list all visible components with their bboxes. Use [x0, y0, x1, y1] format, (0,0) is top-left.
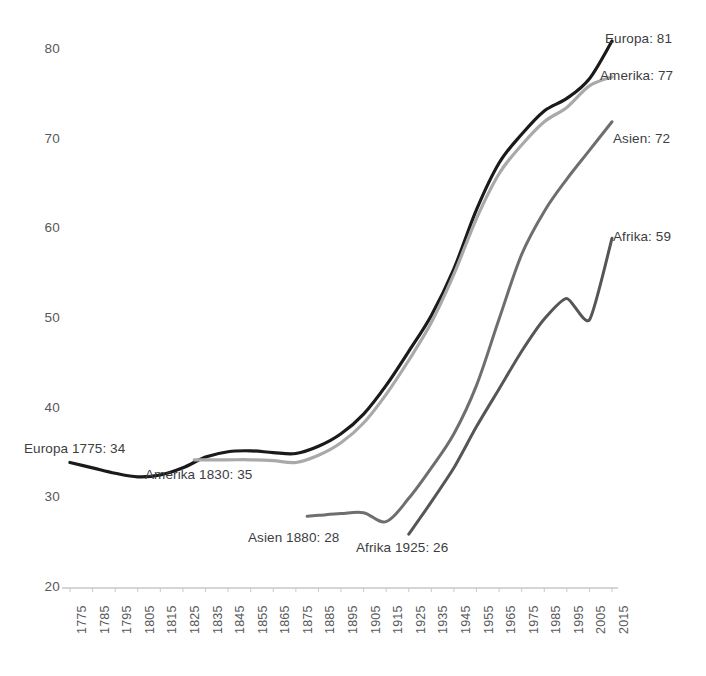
y-axis-tick-label: 30 [26, 489, 60, 504]
y-axis-tick-label: 70 [26, 131, 60, 146]
y-axis-tick-label: 20 [26, 579, 60, 594]
x-axis-tick-label: 1915 [391, 605, 405, 634]
x-axis-tick-label: 1785 [98, 605, 112, 634]
series-start-label-amerika: Amerika 1830: 35 [145, 467, 252, 482]
y-axis-tick-label: 80 [26, 41, 60, 56]
x-axis-tick-label: 1835 [211, 605, 225, 634]
x-axis-tick-label: 2005 [594, 605, 608, 634]
series-end-label-asien: Asien: 72 [613, 131, 670, 146]
x-axis-tick-label: 1895 [346, 605, 360, 634]
x-axis-tick-label: 1945 [459, 605, 473, 634]
x-axis-tick-label: 1935 [436, 605, 450, 634]
x-axis-tick-label: 1985 [549, 605, 563, 634]
series-start-label-europa: Europa 1775: 34 [24, 441, 125, 456]
chart-container: 80706050403020 1775178517951805181518251… [0, 0, 706, 676]
x-axis-tick-label: 1805 [143, 605, 157, 634]
x-axis-tick-label: 1885 [323, 605, 337, 634]
series-start-label-afrika: Afrika 1925: 26 [356, 540, 448, 555]
x-axis-tick-label: 1955 [482, 605, 496, 634]
x-axis-tick-label: 1905 [369, 605, 383, 634]
series-end-label-europa: Europa: 81 [605, 31, 672, 46]
series-layer [70, 41, 612, 534]
x-axis-tick-label: 1845 [233, 605, 247, 634]
x-axis-tick-label: 1995 [572, 605, 586, 634]
x-axis-tick-label: 1875 [301, 605, 315, 634]
line-chart-plot [0, 0, 706, 676]
series-end-label-afrika: Afrika: 59 [613, 229, 671, 244]
series-end-label-amerika: Amerika: 77 [600, 68, 673, 83]
y-axis-tick-label: 60 [26, 220, 60, 235]
x-axis-tick-label: 1925 [414, 605, 428, 634]
x-axis-tick-label: 2015 [617, 605, 631, 634]
x-axis-tick-label: 1815 [165, 605, 179, 634]
x-axis-tick-label: 1825 [188, 605, 202, 634]
x-axis-tick-label: 1775 [75, 605, 89, 634]
x-axis-tick-label: 1975 [527, 605, 541, 634]
x-axis-tick-label: 1865 [278, 605, 292, 634]
axis-layer [62, 588, 618, 592]
x-axis-tick-label: 1965 [504, 605, 518, 634]
series-line-europa [70, 41, 612, 477]
x-axis-tick-label: 1855 [256, 605, 270, 634]
x-axis-tick-label: 1795 [120, 605, 134, 634]
y-axis-tick-label: 50 [26, 310, 60, 325]
y-axis-tick-label: 40 [26, 400, 60, 415]
series-line-amerika [194, 77, 612, 463]
series-start-label-asien: Asien 1880: 28 [248, 530, 339, 545]
series-line-asien [307, 122, 612, 522]
